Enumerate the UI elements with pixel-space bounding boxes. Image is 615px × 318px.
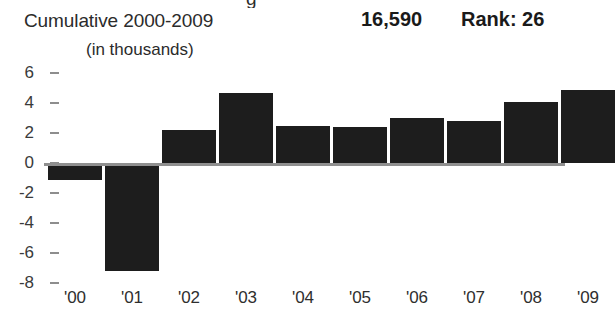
y-axis-tick-label: 4 [25, 95, 34, 111]
y-axis-tick-mark [50, 282, 59, 284]
x-axis-label: '07 [447, 288, 501, 308]
y-axis-tick: 2 [0, 125, 60, 141]
y-axis-tick-mark [50, 132, 59, 134]
y-axis-tick-mark [50, 192, 59, 194]
y-axis-tick-mark [50, 72, 59, 74]
bar [105, 163, 159, 271]
bar [333, 127, 387, 163]
bar [162, 130, 216, 163]
y-axis-tick: -6 [0, 245, 60, 261]
y-axis-tick: -2 [0, 185, 60, 201]
y-axis-tick-label: -6 [19, 245, 34, 261]
y-axis-tick-label: -2 [19, 185, 34, 201]
y-axis-tick-mark [50, 222, 59, 224]
zero-axis-line [44, 163, 565, 166]
x-axis-label: '09 [561, 288, 615, 308]
bar [390, 118, 444, 163]
bar [447, 121, 501, 163]
y-axis-tick-label: -4 [19, 215, 34, 231]
bar [276, 126, 330, 164]
x-axis-label: '02 [162, 288, 216, 308]
y-axis-tick-mark [50, 252, 59, 254]
y-axis-tick: -4 [0, 215, 60, 231]
x-axis-label: '04 [276, 288, 330, 308]
y-axis-tick-label: 0 [25, 155, 34, 171]
bar [561, 90, 615, 164]
y-axis-tick: 4 [0, 95, 60, 111]
x-axis-label: '06 [390, 288, 444, 308]
x-axis-label: '00 [48, 288, 102, 308]
y-axis-tick-mark [50, 102, 59, 104]
x-axis-label: '01 [105, 288, 159, 308]
bar [504, 102, 558, 164]
y-axis-tick-label: 2 [25, 125, 34, 141]
x-axis-label: '08 [504, 288, 558, 308]
y-axis-tick-label: -8 [19, 275, 34, 291]
y-axis-tick: 6 [0, 65, 60, 81]
x-axis-label: '05 [333, 288, 387, 308]
y-axis-tick-label: 6 [25, 65, 34, 81]
bar [219, 93, 273, 164]
x-axis-label: '03 [219, 288, 273, 308]
